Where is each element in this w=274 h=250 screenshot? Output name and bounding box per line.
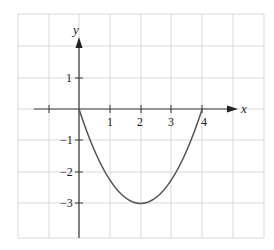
y-axis-label: y (71, 22, 79, 37)
y-tick-label-1: 1 (66, 71, 72, 85)
y-tick-label-neg2: −2 (60, 165, 73, 179)
x-tick-label-2: 2 (137, 115, 143, 129)
x-tick-label-1: 1 (107, 115, 113, 129)
x-axis-label: x (240, 101, 247, 116)
x-tick-label-4: 4 (201, 115, 207, 129)
parabola-chart: x y 1 2 3 4 1 −1 −2 −3 (0, 0, 274, 250)
x-axis (34, 105, 238, 113)
y-tick-label-neg1: −1 (60, 133, 73, 147)
y-axis (75, 37, 83, 238)
y-axis-arrow-icon (76, 37, 83, 48)
y-tick-label-neg3: −3 (60, 196, 73, 210)
x-tick-label-3: 3 (168, 115, 174, 129)
